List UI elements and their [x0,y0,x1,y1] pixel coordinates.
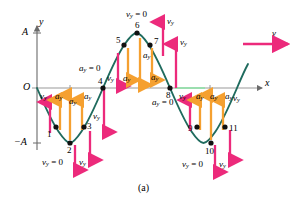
wave-diagram-svg [0,0,296,203]
wave-figure: y x O A −A v 1 2 3 4 5 6 7 8 9 10 11 vy … [0,0,296,203]
x-axis [32,85,262,91]
